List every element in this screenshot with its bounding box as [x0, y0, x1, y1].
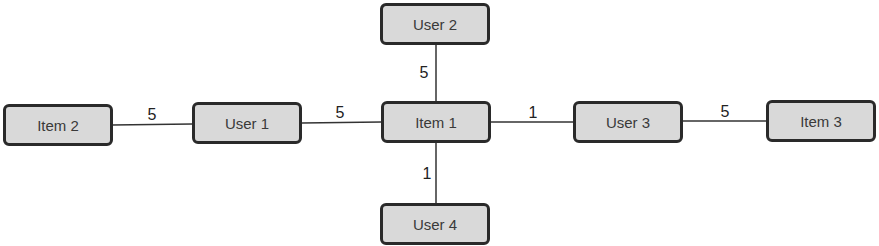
node-item-2: Item 2 — [3, 104, 113, 146]
node-user-2: User 2 — [380, 3, 490, 45]
edge-item2-user1 — [112, 124, 192, 125]
diagram-canvas: 5 5 5 1 1 5 Item 2 User 1 Item 1 User 2 … — [0, 0, 879, 246]
edge-weight-item2-user1: 5 — [148, 106, 157, 124]
node-user-1: User 1 — [192, 102, 302, 144]
edge-user1-item1 — [302, 122, 381, 123]
edge-weight-user2-item1: 5 — [420, 64, 429, 82]
edge-weight-item1-user4: 1 — [423, 165, 432, 183]
node-item-3: Item 3 — [766, 100, 876, 142]
edge-weight-user1-item1: 5 — [336, 104, 345, 122]
node-user-4: User 4 — [380, 203, 490, 245]
node-user-3: User 3 — [573, 101, 683, 143]
node-item-1: Item 1 — [381, 101, 491, 143]
edge-weight-user3-item3: 5 — [721, 103, 730, 121]
edge-weight-item1-user3: 1 — [529, 104, 538, 122]
